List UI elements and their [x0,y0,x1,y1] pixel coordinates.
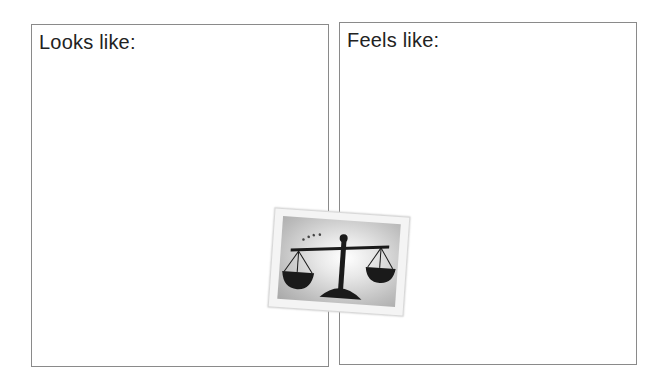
looks-like-panel: Looks like: [31,24,329,367]
looks-like-label: Looks like: [39,31,136,54]
balance-scale-icon [277,216,401,307]
scales-image [268,207,411,316]
feels-like-label: Feels like: [347,29,439,52]
